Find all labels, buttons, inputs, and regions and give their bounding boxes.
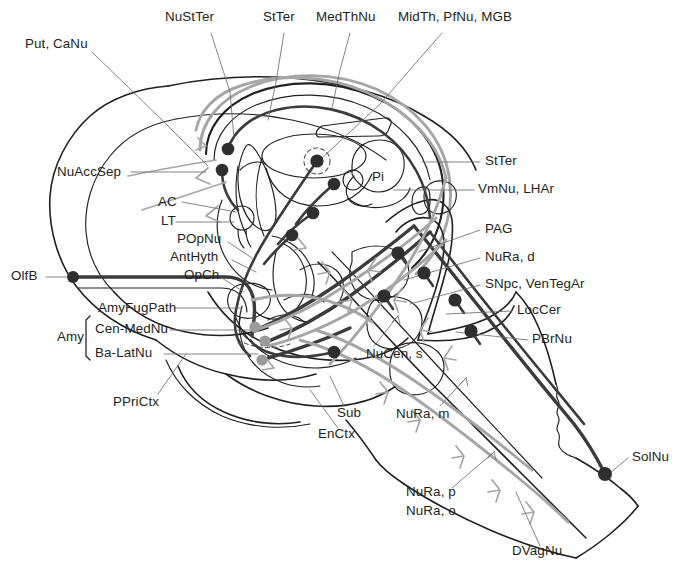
leader-nucen-s <box>374 316 398 346</box>
leader-medthnu <box>332 33 350 108</box>
label-olfb: OlfB <box>11 269 37 283</box>
label-amy: Amy <box>57 330 84 344</box>
label-nuaccsep: NuAccSep <box>57 165 121 179</box>
soma-solnu <box>598 467 612 481</box>
soma-ba-latnu <box>256 354 267 365</box>
label-midth-pfnu-mgb: MidTh, PfNu, MGB <box>398 10 512 24</box>
soma-mid-1 <box>328 178 341 191</box>
soma-snpc <box>417 266 430 279</box>
leader-popnu <box>228 242 252 258</box>
anterior-commissure <box>230 206 254 248</box>
label-nura-d: NuRa, d <box>485 250 535 264</box>
label-nustter: NuStTer <box>165 10 214 24</box>
soma-nuaccsep-1 <box>222 143 235 156</box>
midbrain-slabs <box>350 246 444 395</box>
label-stter-top: StTer <box>263 10 295 24</box>
label-nura-p: NuRa, p <box>406 485 456 499</box>
label-stter-right: StTer <box>485 154 517 168</box>
soma-olfb <box>67 271 79 283</box>
label-ac: AC <box>158 195 177 209</box>
soma-amy-mid <box>259 335 270 346</box>
diagram-canvas: NuStTer StTer MedThNu MidTh, PfNu, MGB P… <box>0 0 676 572</box>
label-pag: PAG <box>485 222 513 236</box>
soma-medthnu <box>310 154 323 167</box>
soma-raphe <box>464 324 477 337</box>
soma-mid-3 <box>286 229 299 242</box>
label-solnu: SolNu <box>632 450 669 464</box>
label-ba-latnu: Ba-LatNu <box>95 346 152 360</box>
soma-pbrnu <box>448 293 461 306</box>
soma-cen-mednu <box>249 321 260 332</box>
amy-bracket <box>86 316 90 360</box>
soma-mid-2 <box>307 207 320 220</box>
soma-loccer <box>377 289 390 302</box>
label-loccer: LocCer <box>517 303 561 317</box>
label-opch: OpCh <box>184 268 219 282</box>
label-sub: Sub <box>337 406 361 420</box>
label-amyfugpath: AmyFugPath <box>98 301 176 315</box>
label-snpc-ventegar: SNpc, VenTegAr <box>485 277 585 291</box>
optic-chiasm <box>228 283 271 340</box>
label-pbrnu: PBrNu <box>532 332 572 346</box>
label-nucen-s: NuCen, s <box>366 347 423 361</box>
leader-put-canu <box>92 52 208 166</box>
label-vmnu-lhar: VmNu, LHAr <box>478 182 554 196</box>
label-nura-m: NuRa, m <box>396 407 450 421</box>
soma-nura-d <box>391 246 404 259</box>
septum-fornix <box>217 158 272 290</box>
leader-enctx <box>310 390 338 428</box>
leader-sub <box>330 376 344 406</box>
label-popnu: POpNu <box>177 232 221 246</box>
gray-raphe-tracts <box>128 78 568 522</box>
label-nura-o: NuRa, o <box>406 504 456 518</box>
soma-amy-dark <box>328 346 341 359</box>
parapiriform-cortex <box>166 360 310 427</box>
label-dvagnu: DVagNu <box>512 544 562 558</box>
label-put-canu: Put, CaNu <box>25 37 88 51</box>
label-pprictx: PPriCtx <box>113 395 159 409</box>
ventricle-leaf <box>238 145 276 231</box>
label-pi: Pi <box>372 170 384 184</box>
label-lt: LT <box>161 214 176 228</box>
label-anthyth: AntHyth <box>170 250 218 264</box>
soma-nuaccsep-2 <box>216 164 229 177</box>
leader-dvagnu <box>516 492 540 546</box>
label-enctx: EnCtx <box>318 427 355 441</box>
leader-ac <box>182 202 236 212</box>
label-cen-mednu: Cen-MedNu <box>95 322 168 336</box>
leader-loccer <box>446 311 512 314</box>
label-medthnu: MedThNu <box>316 10 376 24</box>
